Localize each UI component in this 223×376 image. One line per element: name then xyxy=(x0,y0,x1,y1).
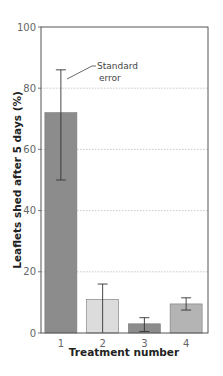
x-tick-label: 1 xyxy=(58,338,64,349)
annotation-line1: Standard xyxy=(97,61,138,71)
annotation-line2: error xyxy=(99,73,121,83)
y-tick-label: 20 xyxy=(23,266,36,277)
standard-error-annotation: Standard error xyxy=(67,61,138,83)
y-tick-label: 40 xyxy=(23,205,36,216)
bars xyxy=(45,113,202,333)
y-tick-label: 100 xyxy=(17,22,36,33)
y-tick-label: 0 xyxy=(30,328,36,339)
x-tick-label: 4 xyxy=(183,338,189,349)
x-axis-label: Treatment number xyxy=(69,346,180,358)
y-tick-label: 80 xyxy=(23,83,36,94)
y-axis-label: Leaflets shed after 5 days (%) xyxy=(11,91,23,268)
bar-chart: 020406080100 1234 Standard error Leaflet… xyxy=(0,0,223,376)
y-tick-label: 60 xyxy=(23,144,36,155)
